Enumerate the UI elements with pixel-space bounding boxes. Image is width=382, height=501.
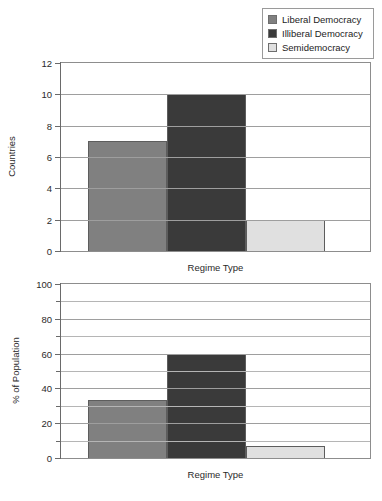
y-tick-countries	[55, 188, 60, 189]
gridline-countries	[61, 157, 370, 158]
gridline-minor-population	[61, 441, 370, 442]
gridline-population	[61, 319, 370, 320]
y-tick-minor-population	[56, 371, 60, 372]
gridline-countries	[61, 126, 370, 127]
y-tick-label-countries: 8	[47, 121, 52, 132]
gridline-minor-population	[61, 406, 370, 407]
gridline-minor-population	[61, 371, 370, 372]
y-tick-countries	[55, 94, 60, 95]
y-tick-minor-population	[56, 301, 60, 302]
bar-countries-2	[246, 220, 325, 251]
y-tick-countries	[55, 126, 60, 127]
legend-swatch-icon-semidemocracy	[268, 43, 277, 52]
y-tick-label-population: 20	[41, 418, 52, 429]
y-tick-label-population: 40	[41, 383, 52, 394]
gridline-minor-population	[61, 336, 370, 337]
y-axis-line-countries	[60, 62, 61, 252]
legend-label-illiberal-democracy: Illiberal Democracy	[282, 28, 363, 39]
chart-legend: Liberal Democracy Illiberal Democracy Se…	[262, 8, 374, 59]
legend-swatch-icon-illiberal-democracy	[268, 29, 277, 38]
x-axis-title-population: Regime Type	[60, 469, 371, 480]
gridline-countries	[61, 94, 370, 95]
gridline-population	[61, 388, 370, 389]
y-tick-minor-population	[56, 336, 60, 337]
y-tick-population	[55, 284, 60, 285]
y-tick-label-countries: 10	[41, 89, 52, 100]
y-tick-minor-population	[56, 406, 60, 407]
y-tick-label-population: 0	[47, 453, 52, 464]
y-tick-label-population: 80	[41, 314, 52, 325]
gridline-population	[61, 423, 370, 424]
y-axis-line-population	[60, 283, 61, 459]
y-axis-title-population: % of Population	[10, 330, 21, 412]
gridline-minor-population	[61, 301, 370, 302]
y-tick-label-countries: 4	[47, 183, 52, 194]
legend-swatch-icon-liberal-democracy	[268, 15, 277, 24]
plot-area-wrapper-countries: 024681012	[60, 62, 371, 252]
y-tick-population	[55, 319, 60, 320]
gridline-population	[61, 354, 370, 355]
y-tick-countries	[55, 251, 60, 252]
legend-item-semidemocracy: Semidemocracy	[268, 40, 368, 54]
legend-item-illiberal-democracy: Illiberal Democracy	[268, 26, 368, 40]
y-tick-label-countries: 6	[47, 152, 52, 163]
y-tick-population	[55, 354, 60, 355]
y-axis-title-countries: Countries	[6, 122, 17, 192]
chart-page: Liberal Democracy Illiberal Democracy Se…	[0, 0, 382, 501]
gridline-countries	[61, 220, 370, 221]
bar-population-0	[88, 400, 167, 458]
x-axis-title-countries: Regime Type	[60, 262, 371, 273]
y-tick-label-countries: 2	[47, 215, 52, 226]
plot-area-countries	[60, 62, 371, 252]
y-tick-countries	[55, 157, 60, 158]
y-tick-label-countries: 0	[47, 246, 52, 257]
legend-item-liberal-democracy: Liberal Democracy	[268, 12, 368, 26]
plot-area-population	[60, 283, 371, 459]
y-tick-label-population: 60	[41, 349, 52, 360]
bar-countries-1	[167, 94, 246, 251]
bar-population-2	[246, 446, 325, 458]
y-tick-population	[55, 423, 60, 424]
legend-label-liberal-democracy: Liberal Democracy	[282, 14, 361, 25]
legend-label-semidemocracy: Semidemocracy	[282, 42, 350, 53]
y-tick-label-countries: 12	[41, 58, 52, 69]
y-tick-countries	[55, 220, 60, 221]
plot-area-wrapper-population: 020406080100	[60, 283, 371, 459]
y-tick-population	[55, 388, 60, 389]
y-tick-minor-population	[56, 441, 60, 442]
y-tick-countries	[55, 63, 60, 64]
y-tick-label-population: 100	[36, 279, 52, 290]
gridline-countries	[61, 188, 370, 189]
y-tick-population	[55, 458, 60, 459]
